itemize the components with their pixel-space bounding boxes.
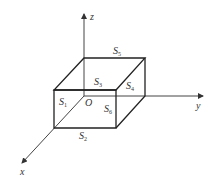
x-axis-label: x [20, 167, 24, 177]
face-label-s1: S1 [59, 97, 67, 108]
face-label-s6: S6 [104, 104, 112, 115]
face-label-s5: S5 [113, 46, 121, 57]
box [54, 58, 145, 128]
x-axis [22, 96, 84, 163]
face-label-s4: S4 [126, 81, 134, 92]
face-label-s3: S3 [94, 77, 102, 88]
z-axis-label: z [90, 12, 94, 22]
origin-label: O [85, 98, 92, 108]
face-label-s2: S2 [79, 131, 87, 142]
y-axis-label: y [196, 101, 200, 111]
box-diagram [0, 0, 213, 182]
